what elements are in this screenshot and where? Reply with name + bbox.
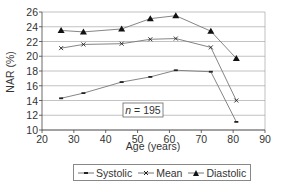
svg-text:20: 20	[26, 50, 38, 62]
svg-text:20: 20	[36, 133, 48, 145]
svg-text:70: 70	[195, 133, 207, 145]
svg-text:30: 30	[68, 133, 80, 145]
svg-text:16: 16	[26, 80, 38, 92]
svg-text:12: 12	[26, 109, 38, 121]
legend-label: Diastolic	[206, 167, 246, 179]
chart-legend: Systolic Mean Diastolic	[73, 164, 251, 181]
svg-text:26: 26	[26, 6, 38, 18]
x-marker-icon	[138, 168, 154, 178]
series-diastolic	[58, 12, 240, 61]
legend-label: Systolic	[96, 167, 132, 179]
y-tick-labels: 101214161820222426	[26, 6, 38, 136]
triangle-marker-icon	[188, 168, 204, 178]
svg-text:24: 24	[26, 21, 38, 33]
svg-text:80: 80	[227, 133, 239, 145]
sample-size-annotation: n = 195	[123, 103, 163, 117]
legend-item-diastolic: Diastolic	[188, 167, 246, 179]
svg-text:22: 22	[26, 36, 38, 48]
legend-item-mean: Mean	[138, 167, 182, 179]
svg-text:14: 14	[26, 95, 38, 107]
legend-item-systolic: Systolic	[78, 167, 132, 179]
svg-text:n = 195: n = 195	[125, 104, 160, 116]
svg-text:18: 18	[26, 65, 38, 77]
y-axis-title: NAR (%)	[4, 51, 16, 92]
dash-marker-icon	[78, 168, 94, 178]
svg-text:40: 40	[100, 133, 112, 145]
svg-text:90: 90	[259, 133, 271, 145]
x-axis-title: Age (years)	[126, 140, 180, 152]
legend-label: Mean	[156, 167, 182, 179]
